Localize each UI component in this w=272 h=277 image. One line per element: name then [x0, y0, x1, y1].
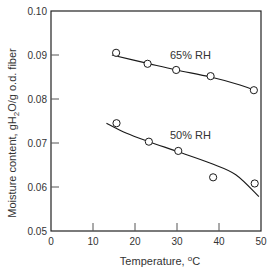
data-point-circle-icon — [113, 120, 120, 127]
data-point-circle-icon — [251, 180, 258, 187]
series-layer — [106, 49, 258, 196]
data-point-circle-icon — [207, 73, 214, 80]
data-point-circle-icon — [144, 60, 151, 67]
x-axis-title: Temperature, oC — [120, 254, 200, 267]
data-point-circle-icon — [175, 147, 182, 154]
data-point-circle-icon — [113, 49, 120, 56]
y-tick-label: 0.07 — [28, 138, 48, 149]
y-tick-label: 0.09 — [28, 50, 48, 61]
y-tick-label: 0.10 — [28, 6, 48, 17]
x-tick-label: 40 — [213, 236, 225, 247]
y-axis-ticks: 0.050.060.070.080.090.10 — [28, 6, 59, 237]
x-tick-label: 10 — [87, 236, 99, 247]
x-tick-label: 50 — [255, 236, 267, 247]
x-axis-ticks: 01020304050 — [48, 223, 267, 247]
x-tick-label: 30 — [171, 236, 183, 247]
series-label-50rh: 50% RH — [170, 129, 211, 141]
y-tick-label: 0.05 — [28, 226, 48, 237]
x-tick-label: 20 — [129, 236, 141, 247]
data-point-circle-icon — [210, 174, 217, 181]
y-tick-label: 0.06 — [28, 182, 48, 193]
y-axis-title-suffix: O/g o.d. fiber — [6, 48, 18, 112]
data-point-circle-icon — [173, 66, 180, 73]
x-tick-label: 0 — [48, 236, 54, 247]
y-axis-title: Moisture content, gH2O/g o.d. fiber — [6, 48, 21, 218]
data-point-circle-icon — [145, 138, 152, 145]
plot-frame — [51, 11, 261, 231]
series-label-65rh: 65% RH — [170, 49, 211, 61]
x-axis-title-main: Temperature, — [120, 255, 188, 267]
x-axis-title-unit: C — [192, 255, 200, 267]
y-axis-title-prefix: Moisture content, gH — [6, 116, 18, 218]
moisture-content-chart: 0.050.060.070.080.090.10 01020304050 65%… — [0, 0, 272, 277]
plot-area — [51, 11, 261, 231]
y-tick-label: 0.08 — [28, 94, 48, 105]
data-point-circle-icon — [250, 87, 257, 94]
